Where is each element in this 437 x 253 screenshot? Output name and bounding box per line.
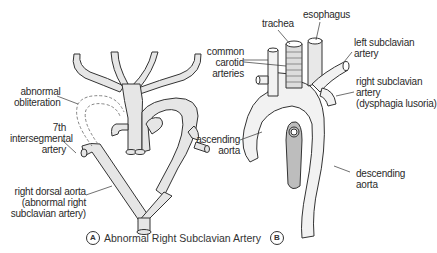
label-line: (dysphagia lusoria)	[356, 98, 437, 109]
label-line: (abnormal right	[0, 197, 86, 208]
label-line: artery	[10, 144, 66, 155]
label-right-subclavian-artery: right subclavian artery (dysphagia lusor…	[356, 76, 437, 109]
label-line: 7th	[10, 122, 66, 133]
figure-a-marker: A	[86, 231, 100, 245]
label-line: ascending	[196, 134, 240, 145]
label-line: intersegmental	[10, 133, 66, 144]
diagram-a-vessels	[73, 52, 209, 235]
label-line: carotid	[204, 57, 244, 68]
label-line: obliteration	[14, 97, 61, 108]
label-line: aorta	[356, 179, 405, 190]
label-ascending-aorta: ascending aorta	[196, 134, 240, 156]
abnormal-obliteration-dashed	[77, 96, 124, 146]
label-line: subclavian artery)	[0, 208, 86, 219]
label-line: common	[204, 46, 244, 57]
label-trachea: trachea	[262, 18, 294, 29]
figure-b-marker: B	[270, 231, 284, 245]
label-line: left subclavian	[354, 37, 414, 48]
label-esophagus: esophagus	[303, 9, 350, 20]
label-line: right subclavian	[356, 76, 437, 87]
label-common-carotid-arteries: common carotid arteries	[204, 46, 244, 79]
label-line: right dorsal aorta	[0, 186, 86, 197]
label-line: aorta	[196, 145, 240, 156]
figure-a-caption: Abnormal Right Subclavian Artery	[104, 232, 261, 244]
label-line: descending	[356, 168, 405, 179]
label-left-subclavian-artery: left subclavian artery	[354, 37, 414, 59]
diagram-b-vessels	[243, 38, 349, 238]
label-abnormal-obliteration: abnormal obliteration	[14, 86, 61, 108]
label-line: artery	[356, 87, 437, 98]
label-7th-intersegmental-artery: 7th intersegmental artery	[10, 122, 66, 155]
label-descending-aorta: descending aorta	[356, 168, 405, 190]
label-line: artery	[354, 48, 414, 59]
label-line: abnormal	[14, 86, 61, 97]
label-right-dorsal-aorta: right dorsal aorta (abnormal right subcl…	[0, 186, 86, 219]
label-line: arteries	[204, 68, 244, 79]
